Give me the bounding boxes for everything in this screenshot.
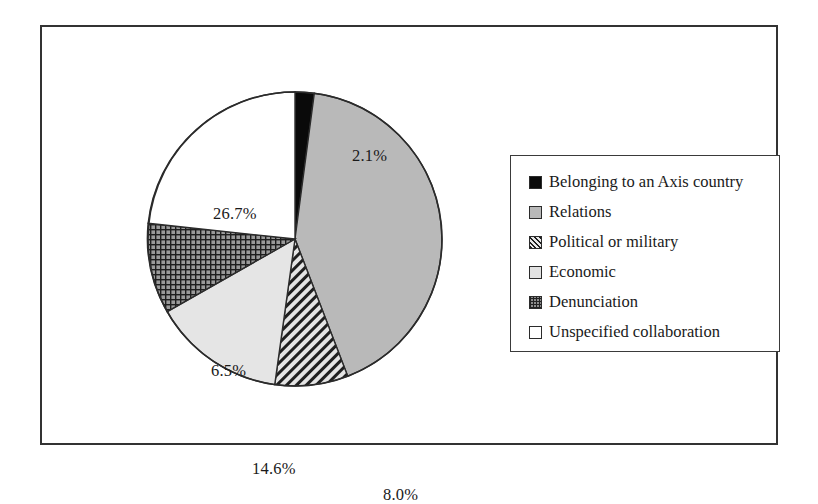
legend-label: Relations	[549, 204, 611, 221]
legend-item-economic: Economic	[529, 257, 779, 287]
pie-label-denunciation: 6.5%	[211, 361, 246, 381]
pie-label-political-or-military: 8.0%	[383, 485, 418, 504]
legend-item-denunciation: Denunciation	[529, 287, 779, 317]
pie-label-belonging-to-an-axis-country: 2.1%	[352, 146, 387, 166]
chart-frame: 2.1% 42.1% 8.0% 14.6% 6.5% 26.7% Belongi…	[40, 25, 778, 445]
legend-item-unspecified-collaboration: Unspecified collaboration	[529, 317, 779, 347]
pie-label-unspecified-collaboration: 26.7%	[213, 204, 257, 224]
legend-swatch-solid-black-icon	[529, 176, 542, 189]
legend-label: Denunciation	[549, 294, 638, 311]
legend-swatch-cross-hatch-icon	[529, 296, 542, 309]
pie-label-economic: 14.6%	[252, 459, 296, 479]
legend-swatch-light-gray-icon	[529, 266, 542, 279]
legend-item-political-or-military: Political or military	[529, 227, 779, 257]
pie-chart: 2.1% 42.1% 8.0% 14.6% 6.5% 26.7%	[145, 89, 445, 389]
legend-item-belonging-to-an-axis-country: Belonging to an Axis country	[529, 167, 779, 197]
pie-slices	[147, 92, 441, 386]
legend-label: Unspecified collaboration	[549, 324, 720, 341]
legend-label: Political or military	[549, 234, 678, 251]
pie-chart-svg	[145, 89, 445, 389]
legend-swatch-diagonal-hatch-icon	[529, 236, 542, 249]
legend-swatch-gray-icon	[529, 206, 542, 219]
chart-legend: Belonging to an Axis country Relations P…	[510, 155, 780, 352]
legend-swatch-white-icon	[529, 326, 542, 339]
legend-item-relations: Relations	[529, 197, 779, 227]
legend-label: Belonging to an Axis country	[549, 174, 743, 191]
legend-label: Economic	[549, 264, 616, 281]
